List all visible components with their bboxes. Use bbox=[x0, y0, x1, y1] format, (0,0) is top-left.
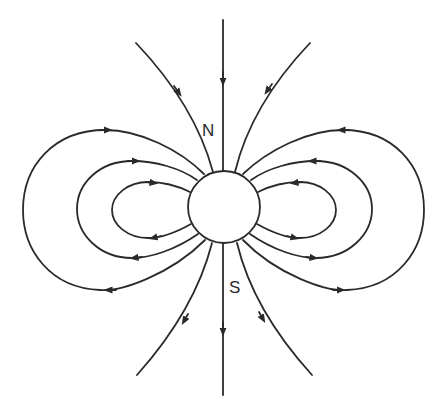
left-loop-inner bbox=[112, 182, 191, 238]
north-pole-label: N bbox=[202, 122, 214, 139]
bottom-right-line bbox=[237, 243, 312, 375]
right-loop-outer bbox=[243, 130, 424, 290]
field-lines-svg bbox=[0, 0, 441, 411]
dipole-field-diagram: N S bbox=[0, 0, 441, 411]
right-loop-inner bbox=[257, 182, 336, 238]
south-pole-label: S bbox=[229, 279, 240, 296]
right-loop-middle bbox=[250, 161, 372, 258]
left-loop-middle bbox=[77, 161, 198, 258]
central-body-circle bbox=[188, 171, 260, 243]
bottom-left-line bbox=[137, 243, 212, 375]
left-loop-outer bbox=[23, 130, 205, 290]
top-left-line bbox=[136, 43, 213, 172]
